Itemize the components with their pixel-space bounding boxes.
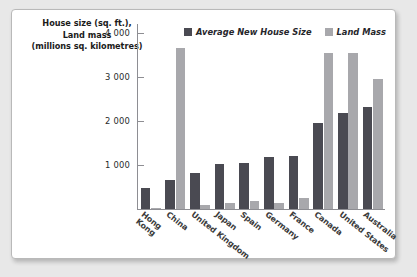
bar-house-size (313, 123, 323, 209)
bar-group (163, 24, 188, 209)
y-axis-tick-label: 1 000 (105, 160, 130, 170)
bar-land-mass (274, 203, 284, 209)
bar-group (360, 24, 385, 209)
bar-group (212, 24, 237, 209)
y-axis-tick-label: 3 000 (105, 72, 130, 82)
bar-house-size (215, 164, 225, 209)
chart-page: House size (sq. ft.), Land mass (million… (0, 0, 417, 277)
plot-area: 1 0002 0003 0004 000 (137, 24, 385, 210)
bar-land-mass (299, 198, 309, 209)
bar-land-mass (373, 79, 383, 209)
y-axis-tick-label: 2 000 (105, 116, 130, 126)
bar-house-size (264, 157, 274, 209)
x-axis-labels: HongKongChinaUnited KingdomJapanSpainGer… (137, 210, 387, 277)
bar-house-size (338, 113, 348, 209)
bar-land-mass (151, 208, 161, 209)
chart-card: House size (sq. ft.), Land mass (million… (11, 9, 396, 259)
bar-group (286, 24, 311, 209)
y-axis-title-line-3: (millions sq. kilometres) (28, 41, 146, 53)
bar-house-size (190, 173, 200, 209)
bar-group (311, 24, 336, 209)
bar-house-size (363, 107, 373, 209)
bar-group (188, 24, 213, 209)
bar-land-mass (250, 201, 260, 209)
x-axis-label: China (164, 210, 189, 233)
bar-land-mass (225, 203, 235, 209)
bar-house-size (239, 163, 249, 209)
y-axis-tick-label: 4 000 (105, 28, 130, 38)
bar-house-size (289, 156, 299, 209)
bar-house-size (165, 180, 175, 209)
bar-land-mass (176, 48, 186, 209)
bar-land-mass (200, 205, 210, 209)
x-axis-label-line: China (164, 210, 189, 232)
x-axis-label-line: Spain (238, 210, 263, 232)
bar-group (237, 24, 262, 209)
bar-land-mass (348, 53, 358, 209)
bar-land-mass (324, 53, 334, 209)
bar-group (138, 24, 163, 209)
x-axis-label: HongKong (134, 210, 164, 239)
x-axis-label: Spain (238, 210, 263, 233)
bar-group (262, 24, 287, 209)
bar-groups (138, 24, 385, 209)
bar-house-size (141, 188, 151, 209)
bar-group (336, 24, 361, 209)
